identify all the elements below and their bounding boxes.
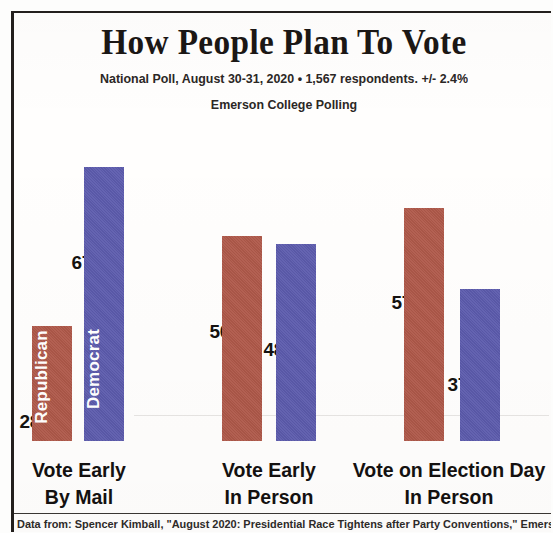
plot-area: 28% Republican 67% Democrat 50% 48% 57% … [14, 129, 551, 441]
category-line-2: In Person [344, 484, 551, 511]
category-line-1: Vote on Election Day [344, 457, 551, 484]
category-line-1: Vote Early [14, 457, 144, 484]
bar-democrat-vote-early-in-person[interactable] [276, 244, 316, 441]
category-label-vote-on-election-day-in-person: Vote on Election Day In Person [344, 457, 551, 511]
series-label-democrat: Democrat [84, 329, 104, 409]
category-line-2: In Person [204, 484, 334, 511]
footnote-divider [14, 513, 551, 514]
bar-republican-vote-on-election-day[interactable] [404, 208, 444, 441]
chart-figure: How People Plan To Vote National Poll, A… [0, 0, 553, 533]
category-axis-labels: Vote Early By Mail Vote Early In Person … [14, 457, 551, 515]
page-title: How People Plan To Vote [28, 23, 541, 63]
chart-source-org: Emerson College Polling [36, 97, 533, 112]
category-label-vote-early-in-person: Vote Early In Person [204, 457, 334, 511]
bar-democrat-vote-on-election-day[interactable] [460, 289, 500, 441]
chart-subtitle: National Poll, August 30-31, 2020 • 1,56… [36, 71, 533, 86]
category-line-1: Vote Early [204, 457, 334, 484]
bar-democrat-vote-early-by-mail[interactable]: Democrat [84, 167, 124, 441]
footnote-source: Data from: Spencer Kimball, "August 2020… [17, 518, 532, 530]
series-label-republican: Republican [32, 330, 52, 424]
bar-republican-vote-early-by-mail[interactable]: Republican [32, 326, 72, 441]
category-line-2: By Mail [14, 484, 144, 511]
chart-frame: How People Plan To Vote National Poll, A… [11, 11, 551, 532]
category-label-vote-early-by-mail: Vote Early By Mail [14, 457, 144, 511]
